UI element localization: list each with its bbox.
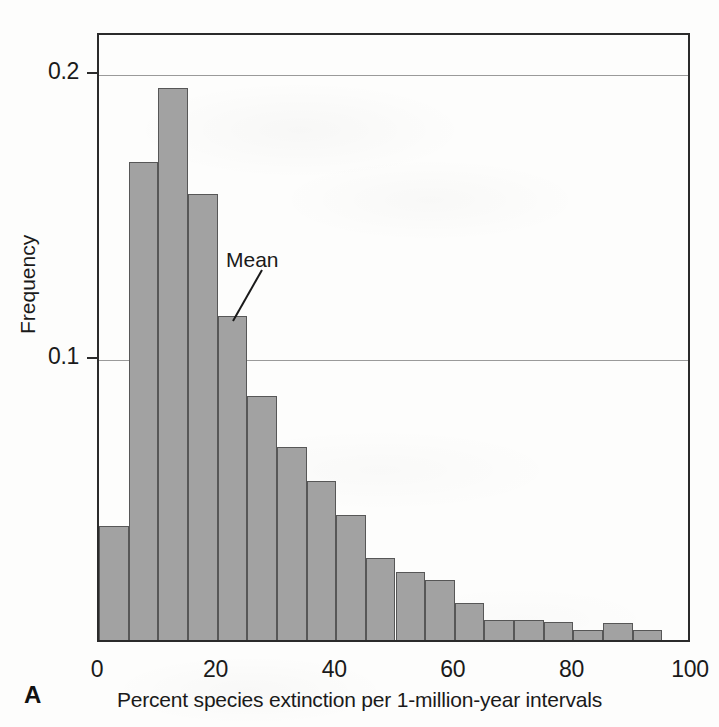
histogram-bar — [603, 623, 633, 640]
bar-series — [99, 35, 688, 640]
x-tick-label: 0 — [57, 656, 137, 683]
panel-label: A — [24, 681, 41, 709]
histogram-bar — [336, 515, 366, 640]
histogram-bar — [396, 572, 426, 640]
x-tick-label: 40 — [294, 656, 374, 683]
y-tick-mark — [87, 72, 98, 74]
histogram-bar — [544, 622, 574, 640]
histogram-bar — [307, 481, 337, 640]
histogram-bar — [247, 396, 277, 641]
histogram-bar — [514, 620, 544, 640]
x-tick-label: 20 — [176, 656, 256, 683]
y-tick-mark — [87, 357, 98, 359]
x-tick-label: 80 — [531, 656, 611, 683]
histogram-bar — [573, 630, 603, 640]
histogram-bar — [484, 620, 514, 640]
mean-annotation-label: Mean — [226, 248, 279, 272]
histogram-bar — [633, 630, 663, 640]
y-tick-label: 0.1 — [5, 343, 79, 370]
histogram-bar — [366, 558, 396, 640]
x-tick-label: 100 — [650, 656, 719, 683]
histogram-figure: Frequency 0.10.2 020406080100 Mean Perce… — [0, 0, 719, 727]
histogram-bar — [188, 194, 218, 640]
y-axis-label: Frequency — [16, 290, 40, 334]
histogram-bar — [99, 526, 129, 640]
plot-area — [97, 33, 690, 642]
x-axis-label: Percent species extinction per 1-million… — [0, 688, 719, 712]
histogram-bar — [277, 447, 307, 640]
histogram-bar — [218, 316, 248, 640]
histogram-bar — [158, 88, 188, 640]
x-tick-label: 60 — [413, 656, 493, 683]
histogram-bar — [129, 162, 159, 640]
y-tick-label: 0.2 — [5, 58, 79, 85]
histogram-bar — [455, 603, 485, 640]
histogram-bar — [425, 580, 455, 640]
